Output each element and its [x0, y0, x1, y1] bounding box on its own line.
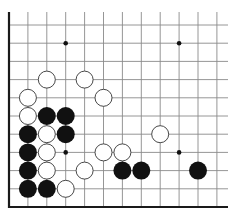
white-stone: [19, 89, 36, 106]
black-stone: [57, 107, 75, 125]
white-stone: [38, 126, 55, 143]
black-stone: [132, 162, 150, 180]
star-point-icon: [177, 150, 182, 155]
black-stone: [19, 162, 37, 180]
white-stone: [76, 162, 93, 179]
black-stone: [38, 107, 56, 125]
black-stone: [189, 162, 207, 180]
white-stone: [57, 180, 74, 197]
black-stone: [57, 125, 75, 143]
black-stone: [113, 162, 131, 180]
star-point-icon: [63, 150, 68, 155]
white-stone: [38, 71, 55, 88]
go-board[interactable]: [0, 0, 236, 217]
white-stone: [38, 162, 55, 179]
black-stone: [19, 125, 37, 143]
black-stone: [19, 180, 37, 198]
white-stone: [95, 89, 112, 106]
star-point-icon: [63, 41, 68, 46]
black-stone: [38, 180, 56, 198]
white-stone: [95, 144, 112, 161]
white-stone: [38, 144, 55, 161]
white-stone: [152, 126, 169, 143]
black-stone: [19, 143, 37, 161]
star-point-icon: [177, 41, 182, 46]
white-stone: [76, 71, 93, 88]
white-stone: [19, 108, 36, 125]
white-stone: [114, 144, 131, 161]
